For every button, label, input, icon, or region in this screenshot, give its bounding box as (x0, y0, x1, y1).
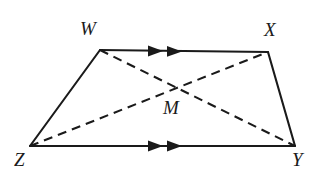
vertex-label-x: X (264, 20, 276, 39)
parallel-mark-zy-1 (148, 141, 163, 152)
geometry-figure: W X Y Z M (0, 0, 323, 180)
diagonal-zx (30, 52, 268, 146)
parallel-mark-wx-1 (148, 46, 163, 57)
edge-xy (268, 52, 295, 146)
edge-wx (100, 50, 268, 52)
vertex-label-m: M (163, 98, 179, 117)
vertex-label-z: Z (14, 150, 25, 169)
diagonal-wy (100, 50, 295, 146)
vertex-label-w: W (80, 19, 96, 38)
parallel-mark-wx-2 (167, 46, 182, 57)
parallel-mark-zy-2 (167, 141, 182, 152)
vertex-label-y: Y (292, 150, 303, 169)
